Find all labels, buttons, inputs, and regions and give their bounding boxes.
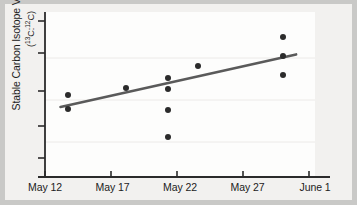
scatter-point [65, 92, 71, 98]
scatter-point [165, 107, 171, 113]
scatter-point [65, 106, 71, 112]
scatter-point [165, 86, 171, 92]
x-axis-tick-label: May 22 [163, 181, 197, 193]
x-axis-tick-label: May 12 [28, 181, 62, 193]
scatter-point [165, 75, 171, 81]
plot-area [45, 12, 315, 177]
scatter-point [280, 53, 286, 59]
scatter-point [280, 72, 286, 78]
scatter-point [280, 34, 286, 40]
x-axis-tick-label: June 1 [300, 181, 331, 193]
scatter-point [123, 85, 129, 91]
scatter-point [195, 63, 201, 69]
chart-plot-canvas [0, 0, 357, 205]
x-axis-tick-label: May 27 [231, 181, 265, 193]
x-axis-tick-label: May 17 [96, 181, 130, 193]
scatter-point [165, 134, 171, 140]
chart-figure: Stable Carbon Isotope Values Ratio (13C:… [0, 0, 357, 205]
